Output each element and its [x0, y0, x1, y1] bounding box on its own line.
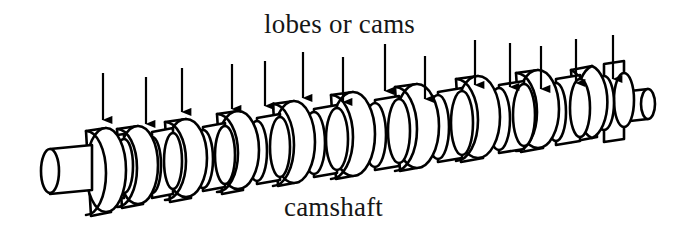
- label-lobes-or-cams: lobes or cams: [264, 9, 415, 39]
- label-camshaft: camshaft: [284, 192, 383, 222]
- shaft-end-left: [41, 145, 92, 194]
- camshaft-figure: lobes or cams camshaft: [0, 0, 679, 244]
